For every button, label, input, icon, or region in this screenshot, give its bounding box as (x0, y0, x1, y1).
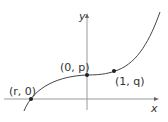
label-0-p: (0, p) (60, 61, 90, 74)
x-axis-arrow-icon (154, 97, 159, 101)
y-axis-label: y (78, 10, 86, 23)
x-axis-label: x (150, 102, 158, 115)
label-1-q: (1, q) (115, 75, 145, 88)
function-curve (24, 12, 160, 111)
label-r-0: (r, 0) (9, 85, 36, 98)
point-1-q (112, 69, 116, 73)
graph: y x (r, 0) (0, p) (1, q) (0, 0, 168, 122)
y-axis-arrow-icon (85, 13, 89, 18)
